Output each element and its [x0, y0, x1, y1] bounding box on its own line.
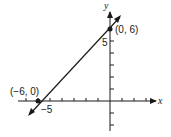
y-ticks	[110, 41, 114, 125]
point-0-6	[108, 27, 113, 32]
y-axis-label: y	[103, 0, 109, 11]
point-label-a: (−6, 0)	[10, 86, 39, 97]
graph-line	[30, 17, 120, 114]
point-label-b: (0, 6)	[115, 24, 138, 35]
point-neg6-0	[36, 99, 41, 104]
y-tick-label: 5	[102, 37, 108, 48]
y-axis-arrow-icon	[107, 11, 113, 18]
coordinate-plane: x y −5 5 (−6, 0) (0, 6)	[0, 0, 171, 137]
x-tick-label: −5	[41, 104, 53, 115]
x-axis-arrow-icon	[150, 98, 157, 104]
x-axis-label: x	[157, 95, 163, 106]
